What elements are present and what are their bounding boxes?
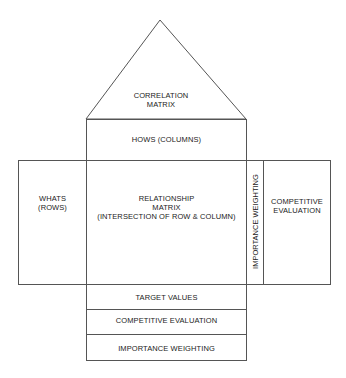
relationship-matrix-box: [86, 160, 247, 285]
correlation-matrix-label: CORRELATION MATRIX: [116, 91, 206, 109]
importance-weighting-vertical-label: IMPORTANCE WEIGHTING: [251, 172, 260, 272]
relationship-matrix-label: RELATIONSHIP MATRIX (INTERSECTION OF ROW…: [86, 194, 247, 221]
competitive-evaluation-side-box: [263, 160, 331, 285]
importance-weighting-row-label: IMPORTANCE WEIGHTING: [86, 344, 247, 353]
hows-label: HOWS (COLUMNS): [86, 135, 247, 144]
competitive-evaluation-side-label: COMPETITIVE EVALUATION: [263, 197, 331, 215]
whats-box: [18, 160, 87, 285]
competitive-evaluation-row-label: COMPETITIVE EVALUATION: [86, 316, 247, 325]
target-values-label: TARGET VALUES: [86, 293, 247, 302]
whats-label: WHATS (ROWS): [18, 194, 87, 212]
